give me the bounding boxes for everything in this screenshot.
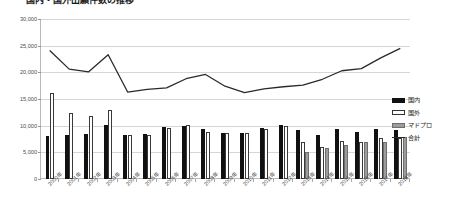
- bar: [162, 127, 166, 179]
- bar: [89, 116, 93, 179]
- bar: [320, 147, 324, 179]
- legend-swatch-icon: [392, 110, 405, 115]
- y-tick-label: 15,000: [20, 96, 37, 102]
- bar: [123, 135, 127, 179]
- bar: [355, 132, 359, 179]
- bar: [374, 129, 378, 179]
- bar-group: [137, 19, 156, 179]
- chart-title: 国内・国外出願件数の推移: [26, 0, 134, 6]
- legend-item-total[interactable]: 合計: [392, 132, 451, 145]
- bar-group: [313, 19, 332, 179]
- bar-group: [274, 19, 293, 179]
- legend-swatch-icon: [392, 137, 405, 138]
- bar: [316, 135, 320, 179]
- bar: [167, 128, 171, 179]
- bar: [225, 133, 229, 179]
- bar-group: [40, 19, 59, 179]
- bar-group: [59, 19, 78, 179]
- legend-item-foreign[interactable]: 国外: [392, 107, 451, 120]
- legend-item-madopro[interactable]: マドプロ: [392, 119, 451, 132]
- bar-group: [118, 19, 137, 179]
- legend-label: マドプロ: [408, 121, 432, 129]
- bar: [143, 134, 147, 179]
- chart-legend: 国内国外マドプロ合計: [392, 94, 451, 144]
- y-tick-label: 30,000: [20, 16, 37, 22]
- bar: [245, 133, 249, 179]
- bar: [301, 142, 305, 179]
- bar-group: [215, 19, 234, 179]
- y-tick-label: 0: [34, 176, 37, 182]
- chart-container: 国内・国外出願件数の推移 国内国外マドプロ合計 05,00010,00015,0…: [0, 0, 451, 220]
- bar-group: [98, 19, 117, 179]
- legend-label: 国内: [408, 96, 420, 104]
- legend-label: 国外: [408, 109, 420, 117]
- bar: [359, 142, 363, 179]
- bar: [240, 133, 244, 179]
- bar: [284, 126, 288, 179]
- bar-group: [235, 19, 254, 179]
- bar-group: [332, 19, 351, 179]
- bar: [50, 93, 54, 179]
- legend-swatch-icon: [392, 98, 405, 103]
- bar: [69, 113, 73, 179]
- y-tick-label: 20,000: [20, 69, 37, 75]
- bar: [264, 129, 268, 179]
- bar: [104, 125, 108, 179]
- bar-group: [157, 19, 176, 179]
- bar-group: [79, 19, 98, 179]
- bar: [84, 134, 88, 179]
- bar-group: [371, 19, 390, 179]
- bar: [379, 138, 383, 179]
- bar: [186, 125, 190, 179]
- bar: [206, 132, 210, 179]
- legend-swatch-icon: [392, 123, 405, 128]
- bar: [46, 136, 50, 179]
- bar: [260, 128, 264, 179]
- bar: [335, 129, 339, 179]
- bar: [279, 125, 283, 179]
- bar: [296, 130, 300, 179]
- bar: [221, 133, 225, 179]
- bar: [108, 110, 112, 179]
- bar-group: [254, 19, 273, 179]
- bar: [340, 141, 344, 179]
- y-tick-mark: [38, 179, 41, 180]
- y-tick-label: 25,000: [20, 43, 37, 49]
- plot-area: [40, 19, 410, 179]
- bar: [398, 138, 402, 179]
- bar-group: [176, 19, 195, 179]
- bar: [182, 126, 186, 179]
- bar: [128, 135, 132, 179]
- legend-item-domestic[interactable]: 国内: [392, 94, 451, 107]
- bar: [65, 135, 69, 179]
- bar: [201, 129, 205, 179]
- legend-label: 合計: [408, 134, 420, 142]
- bar-group: [352, 19, 371, 179]
- y-tick-label: 5,000: [23, 149, 37, 155]
- bar-group: [196, 19, 215, 179]
- bar-group: [293, 19, 312, 179]
- y-tick-label: 10,000: [20, 123, 37, 129]
